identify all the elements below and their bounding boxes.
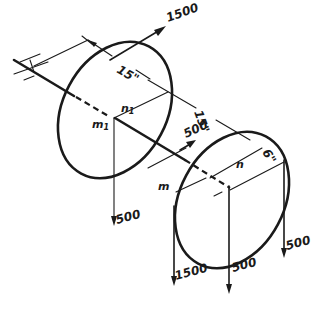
force-label-500-left: 500 [114,207,142,227]
point-n1-left: n1 [121,102,134,116]
force-label-1500-top: 1500 [164,0,200,25]
point-n-right: n [236,158,244,171]
left-pulley [35,22,194,198]
force-label-500-bottom-center: 500 [230,255,258,275]
point-m1-left: m1 [92,118,109,132]
force-label-1500-bottom: 1500 [173,261,209,283]
force-label-500-middle: 500 [181,117,210,140]
left-pulley-radials [111,92,168,226]
force-label-500-right: 500 [284,233,312,253]
point-m-right: m [158,180,169,193]
shaft-pulley-diagram: 15" 1500 m1 n1 500 15" 500 n m 6" [0,0,316,312]
force-500-right-center [226,186,232,294]
dim-label-15-top: 15" [115,62,142,86]
dim-label-6: 6" [259,147,278,167]
